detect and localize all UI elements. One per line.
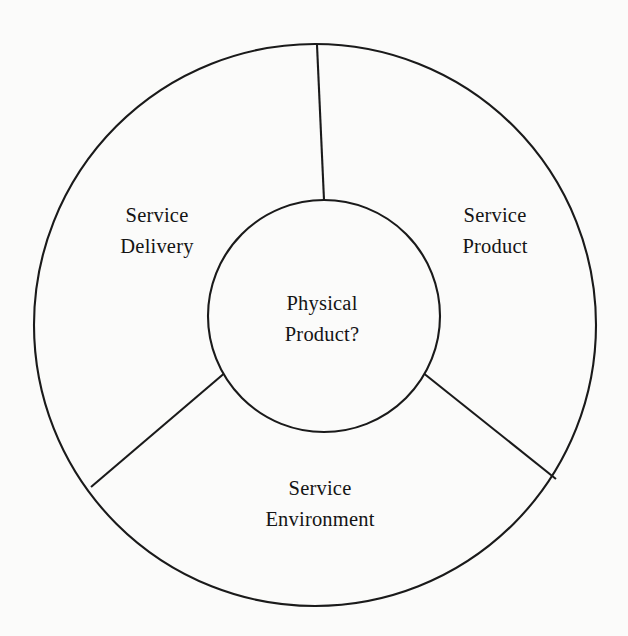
core-label: Physical Product? xyxy=(285,292,359,345)
segment-label-service-product: Service Product xyxy=(462,204,527,257)
divider-top xyxy=(317,45,324,200)
segment-label-service-delivery: Service Delivery xyxy=(120,204,194,258)
service-concept-wheel: Service Delivery Service Product Service… xyxy=(0,0,628,636)
segment-label-service-environment: Service Environment xyxy=(265,477,374,530)
service-environment-label-line1: Service xyxy=(289,477,352,499)
inner-circle xyxy=(208,200,440,432)
core-label-line1: Physical xyxy=(286,292,357,315)
divider-lower-left xyxy=(91,374,224,487)
service-delivery-label-line1: Service xyxy=(126,204,189,226)
service-product-label-line2: Product xyxy=(462,235,527,257)
service-delivery-label-line2: Delivery xyxy=(120,235,194,258)
service-product-label-line1: Service xyxy=(464,204,527,226)
core-label-line2: Product? xyxy=(285,323,359,345)
diagram-root: Service Delivery Service Product Service… xyxy=(0,0,628,636)
divider-lower-right xyxy=(425,374,557,479)
service-environment-label-line2: Environment xyxy=(265,508,374,530)
